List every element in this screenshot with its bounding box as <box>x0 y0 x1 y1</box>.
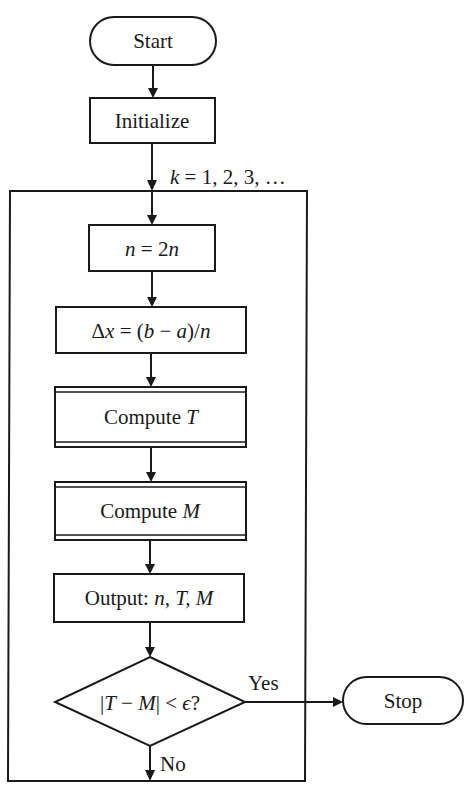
var-b: b <box>144 319 155 343</box>
arrowhead <box>145 647 155 657</box>
initialize-label: Initialize <box>115 109 190 133</box>
flowchart: Start Initialize k = 1, 2, 3, … n = 2n Δ… <box>0 0 472 794</box>
output-text: Output: <box>85 586 154 610</box>
compute-m-label: Compute M <box>100 499 201 523</box>
stop-label: Stop <box>384 689 423 713</box>
stop-node: Stop <box>343 677 463 724</box>
double-n-label: n = 2n <box>125 237 179 261</box>
initialize-node: Initialize <box>90 98 215 143</box>
arrowhead <box>145 564 155 574</box>
var-a: a <box>177 319 188 343</box>
start-label: Start <box>133 29 173 53</box>
var-n: n <box>200 319 211 343</box>
no-label: No <box>160 752 186 776</box>
compute-text: Compute <box>100 499 182 523</box>
compute-m-node: Compute M <box>55 482 246 540</box>
arrowhead <box>145 770 155 781</box>
arrowhead <box>147 297 157 307</box>
var-n: n <box>168 237 179 261</box>
double-n-node: n = 2n <box>89 225 215 271</box>
output-node: Output: n, T, M <box>54 574 244 622</box>
var-t: T <box>186 405 199 429</box>
arrowhead <box>147 215 157 225</box>
var-m: M <box>181 499 201 523</box>
delta-x-label: Δx = (b − a)/n <box>92 319 211 343</box>
compute-text: Compute <box>104 405 186 429</box>
var-m: M <box>137 691 157 715</box>
output-vars: n, T, M <box>154 586 215 610</box>
loop-values: = 1, 2, 3, … <box>179 165 285 189</box>
start-node: Start <box>90 17 216 65</box>
equals-two: = 2 <box>136 237 169 261</box>
delta-symbol: Δ <box>92 319 106 343</box>
minus: − <box>116 691 138 715</box>
compute-t-label: Compute T <box>104 405 199 429</box>
decision-node: |T − M| < ϵ? <box>55 657 245 746</box>
var-n: n <box>125 237 136 261</box>
yes-label: Yes <box>248 671 279 695</box>
arrowhead <box>148 88 158 98</box>
compute-t-node: Compute T <box>55 387 246 447</box>
arrowhead <box>146 472 156 482</box>
output-label: Output: n, T, M <box>85 586 215 610</box>
decision-label: |T − M| < ϵ? <box>100 691 200 715</box>
minus: − <box>154 319 176 343</box>
question-mark: ? <box>191 691 200 715</box>
equals-paren: = ( <box>114 319 143 343</box>
abs-bar-less-than: | < <box>156 691 183 715</box>
loop-counter-label: k = 1, 2, 3, … <box>170 165 286 189</box>
delta-x-node: Δx = (b − a)/n <box>56 307 246 353</box>
arrowhead <box>333 697 343 707</box>
arrowhead <box>147 180 157 191</box>
paren-slash: )/ <box>187 319 200 343</box>
arrowhead <box>146 377 156 387</box>
